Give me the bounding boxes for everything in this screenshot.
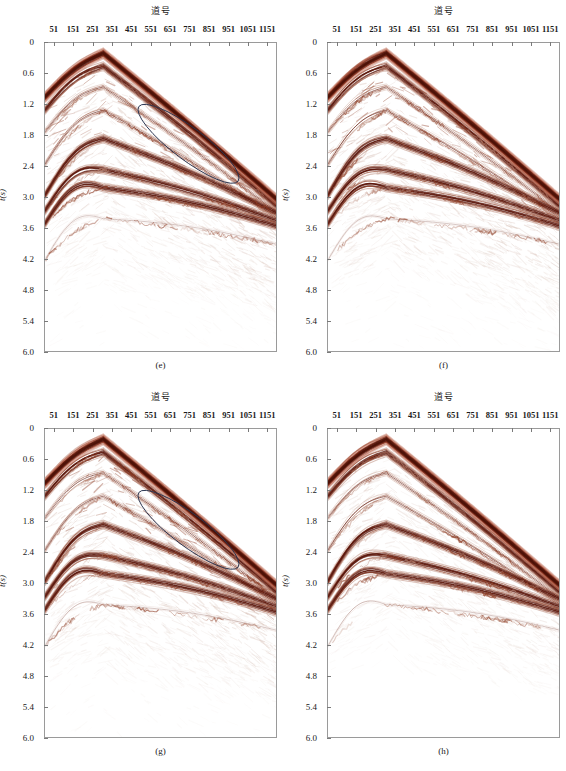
- y-tick-label: 1.8: [306, 130, 317, 140]
- y-tick-mark: [327, 352, 331, 353]
- x-tick-label: 551: [427, 410, 440, 420]
- x-tick-label: 51: [332, 24, 341, 34]
- y-tick-label: 3.6: [306, 609, 317, 619]
- y-tick-label: 4.2: [306, 640, 317, 650]
- plot-area: [327, 42, 560, 352]
- x-tick-label: 651: [447, 410, 460, 420]
- y-tick-label: 0: [313, 423, 318, 433]
- reflection-events: [328, 435, 560, 647]
- x-tick-label: 551: [144, 410, 157, 420]
- y-tick-label: 4.8: [306, 671, 317, 681]
- x-tick-label: 851: [203, 24, 216, 34]
- y-tick-label: 3.6: [306, 223, 317, 233]
- x-tick-label: 751: [466, 410, 479, 420]
- panel-h: 道号51151251351451551651751851951105111510…: [283, 386, 566, 771]
- y-tick-label: 6.0: [306, 347, 317, 357]
- y-tick-label: 0: [30, 37, 35, 47]
- y-tick-label: 1.2: [23, 485, 34, 495]
- y-tick-mark: [327, 738, 331, 739]
- x-tick-labels: 5115125135145155165175185195110511151: [44, 410, 277, 424]
- y-tick-label: 3.6: [23, 223, 34, 233]
- x-tick-label: 551: [144, 24, 157, 34]
- y-tick-label: 0.6: [23, 454, 34, 464]
- y-tick-label: 3.0: [23, 192, 34, 202]
- x-tick-label: 251: [369, 24, 382, 34]
- x-tick-label: 1051: [239, 410, 256, 420]
- x-tick-label: 151: [350, 24, 363, 34]
- y-tick-label: 5.4: [23, 702, 34, 712]
- x-tick-label: 851: [486, 410, 499, 420]
- y-tick-label: 2.4: [23, 547, 34, 557]
- x-tick-label: 351: [389, 410, 402, 420]
- y-tick-label: 4.8: [23, 671, 34, 681]
- x-tick-label: 1151: [259, 24, 276, 34]
- y-axis-title: t(s): [0, 189, 7, 201]
- panel-caption: (h): [327, 746, 560, 756]
- figure-seismic-panels: 道号51151251351451551651751851951105111510…: [0, 0, 566, 771]
- x-tick-label: 451: [408, 410, 421, 420]
- x-tick-labels: 5115125135145155165175185195110511151: [327, 410, 560, 424]
- x-tick-label: 451: [125, 24, 138, 34]
- y-tick-label: 1.2: [306, 99, 317, 109]
- plot-area: [327, 428, 560, 738]
- y-tick-label: 0: [30, 423, 35, 433]
- y-tick-label: 3.6: [23, 609, 34, 619]
- x-tick-label: 351: [106, 410, 119, 420]
- y-axis-title: t(s): [0, 575, 7, 587]
- y-tick-label: 5.4: [23, 316, 34, 326]
- panel-f: 道号51151251351451551651751851951105111510…: [283, 0, 566, 385]
- x-tick-label: 1051: [522, 410, 539, 420]
- y-tick-label: 4.2: [23, 254, 34, 264]
- y-axis-title: t(s): [280, 575, 290, 587]
- x-tick-label: 651: [164, 24, 177, 34]
- x-tick-label: 451: [125, 410, 138, 420]
- x-axis-title: 道号: [44, 392, 277, 403]
- x-tick-label: 1151: [542, 24, 559, 34]
- x-tick-label: 651: [447, 24, 460, 34]
- y-tick-label: 1.2: [23, 99, 34, 109]
- y-tick-label: 0.6: [306, 454, 317, 464]
- x-tick-label: 751: [183, 24, 196, 34]
- y-tick-label: 1.8: [306, 516, 317, 526]
- x-tick-label: 851: [203, 410, 216, 420]
- x-tick-label: 1051: [522, 24, 539, 34]
- y-tick-label: 5.4: [306, 316, 317, 326]
- x-tick-label: 1151: [259, 410, 276, 420]
- y-tick-label: 0: [313, 37, 318, 47]
- y-tick-label: 4.8: [306, 285, 317, 295]
- x-tick-label: 851: [486, 24, 499, 34]
- y-tick-label: 2.4: [306, 161, 317, 171]
- x-tick-label: 951: [505, 24, 518, 34]
- y-tick-label: 0.6: [306, 68, 317, 78]
- panel-g: 道号51151251351451551651751851951105111510…: [0, 386, 283, 771]
- y-tick-label: 4.2: [23, 640, 34, 650]
- x-tick-label: 51: [49, 410, 58, 420]
- x-tick-label: 51: [332, 410, 341, 420]
- y-tick-label: 6.0: [306, 733, 317, 743]
- reflection-events: [328, 49, 560, 261]
- x-tick-label: 951: [222, 24, 235, 34]
- x-tick-label: 351: [389, 24, 402, 34]
- x-tick-label: 651: [164, 410, 177, 420]
- x-tick-label: 151: [67, 24, 80, 34]
- y-tick-label: 1.8: [23, 516, 34, 526]
- x-tick-label: 551: [427, 24, 440, 34]
- y-tick-label: 4.2: [306, 254, 317, 264]
- x-tick-label: 351: [106, 24, 119, 34]
- x-tick-label: 251: [86, 410, 99, 420]
- x-tick-label: 151: [350, 410, 363, 420]
- y-tick-label: 5.4: [306, 702, 317, 712]
- plot-area: [44, 428, 277, 738]
- x-tick-label: 751: [466, 24, 479, 34]
- plot-area: [44, 42, 277, 352]
- y-tick-label: 1.2: [306, 485, 317, 495]
- x-axis-title: 道号: [327, 6, 560, 17]
- x-tick-label: 951: [505, 410, 518, 420]
- x-tick-label: 451: [408, 24, 421, 34]
- y-tick-label: 3.0: [306, 578, 317, 588]
- y-tick-label: 2.4: [306, 547, 317, 557]
- x-tick-label: 51: [49, 24, 58, 34]
- y-tick-mark: [44, 352, 48, 353]
- x-axis-title: 道号: [327, 392, 560, 403]
- x-tick-label: 251: [369, 410, 382, 420]
